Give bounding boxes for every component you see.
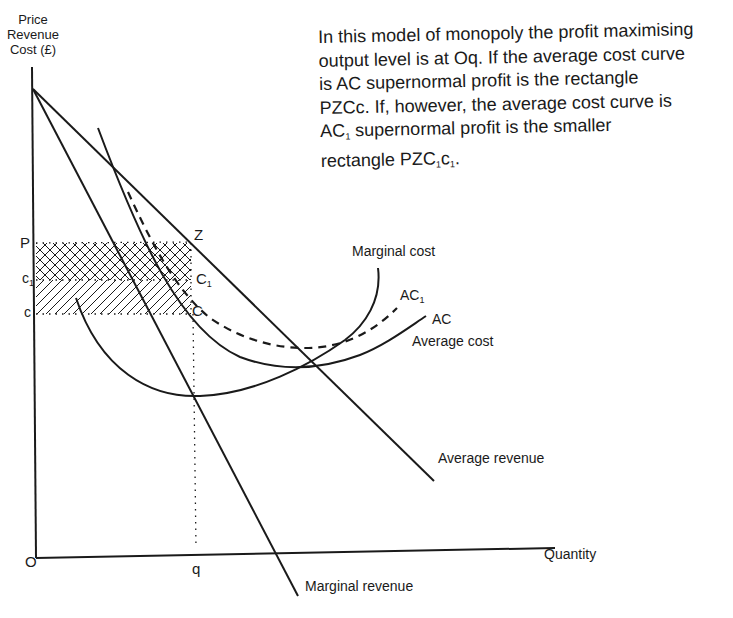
label-c1-upper: C1 xyxy=(196,270,212,289)
label-ac1-subscript: 1 xyxy=(419,295,424,305)
label-quantity: Quantity xyxy=(544,546,596,562)
label-marginal-cost: Marginal cost xyxy=(352,243,435,259)
label-average-revenue: Average revenue xyxy=(438,450,544,466)
label-c1: c1 xyxy=(22,270,34,288)
label-c-upper: C xyxy=(192,302,203,319)
label-z: Z xyxy=(194,226,203,243)
label-q: q xyxy=(192,560,200,577)
label-origin: O xyxy=(25,553,37,570)
label-c: c xyxy=(24,304,31,320)
label-average-cost: Average cost xyxy=(412,333,493,349)
label-p: P xyxy=(20,234,30,251)
y-axis-label-line-3: Cost (£) xyxy=(0,42,66,57)
label-c1-subscript: 1 xyxy=(29,278,34,288)
y-axis-label-line-1: Price xyxy=(0,12,66,27)
label-c1-upper-subscript: 1 xyxy=(207,279,212,289)
caption-text-segment: . xyxy=(455,148,460,168)
caption-text-segment: rectangle PZC xyxy=(321,148,436,170)
caption-text-segment: supernormal profit is the smaller xyxy=(350,115,611,140)
y-axis xyxy=(32,67,36,558)
label-c1-upper-text: C xyxy=(196,270,207,287)
average-cost-1-curve xyxy=(128,192,397,348)
label-ac1-text: AC xyxy=(400,287,419,303)
y-axis-label: Price Revenue Cost (£) xyxy=(0,12,66,57)
caption-ac: AC xyxy=(320,120,345,141)
label-ac1: AC1 xyxy=(400,287,424,305)
y-axis-label-line-2: Revenue xyxy=(0,27,66,42)
label-ac: AC xyxy=(432,311,451,327)
x-axis xyxy=(36,548,555,558)
marginal-revenue-curve xyxy=(33,89,298,596)
profit-region-pzc1c1 xyxy=(36,243,191,280)
label-c1-text: c xyxy=(22,270,29,286)
label-marginal-revenue: Marginal revenue xyxy=(305,578,413,594)
caption-text: In this model of monopoly the profit max… xyxy=(318,17,733,179)
caption-text-segment: c xyxy=(441,148,450,168)
